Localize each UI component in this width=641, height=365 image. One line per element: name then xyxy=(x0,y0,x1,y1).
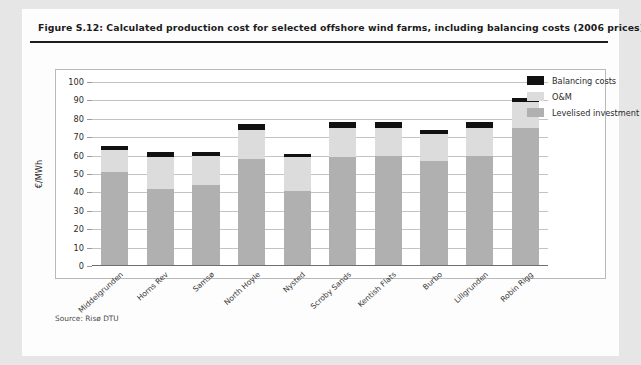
legend-label: O&M xyxy=(552,92,572,102)
bar-segment-levelised-investment xyxy=(466,156,493,266)
bar-segment-levelised-investment xyxy=(101,172,128,266)
legend-item: Balancing costs xyxy=(527,75,639,86)
bar-group[interactable]: North Hoyle xyxy=(238,82,265,266)
y-axis-tick xyxy=(87,100,92,101)
figure-title-bar: Figure S.12: Calculated production cost … xyxy=(30,15,608,45)
bar-segment-levelised-investment xyxy=(375,156,402,266)
y-axis-tick xyxy=(87,174,92,175)
bar-segment-levelised-investment xyxy=(420,161,447,266)
legend-label: Levelised investment xyxy=(552,108,639,118)
bar-segment-om xyxy=(329,128,356,157)
bar-segment-balancing-costs xyxy=(238,124,265,130)
y-axis-tick-label: 90 xyxy=(74,95,84,105)
y-axis-tick xyxy=(87,119,92,120)
y-axis-tick xyxy=(87,156,92,157)
y-axis-tick-label: 40 xyxy=(74,187,84,197)
bar-group[interactable]: Nysted xyxy=(284,82,311,266)
bar-group[interactable]: Kentish Flats xyxy=(375,82,402,266)
y-axis-tick xyxy=(87,137,92,138)
bar-segment-balancing-costs xyxy=(284,154,311,158)
bar-segment-om xyxy=(147,157,174,188)
y-axis-tick xyxy=(87,229,92,230)
bar-group[interactable]: Lillgrunden xyxy=(466,82,493,266)
bar-segment-levelised-investment xyxy=(238,159,265,266)
y-axis-tick xyxy=(87,211,92,212)
chart-frame: €/MWh 0102030405060708090100 Middelgrund… xyxy=(55,69,606,279)
source-note: Source: Risø DTU xyxy=(55,314,119,323)
bar-segment-om xyxy=(375,128,402,156)
title-rule xyxy=(30,41,608,43)
bar-segment-om xyxy=(284,157,311,190)
y-axis-tick xyxy=(87,248,92,249)
bar-segment-levelised-investment xyxy=(147,189,174,266)
bar-segment-levelised-investment xyxy=(329,157,356,266)
bar-group[interactable]: Scroby Sands xyxy=(329,82,356,266)
legend-swatch-icon xyxy=(527,92,544,101)
y-axis-tick-label: 30 xyxy=(74,206,84,216)
y-axis-tick-label: 60 xyxy=(74,151,84,161)
y-axis-tick xyxy=(87,82,92,83)
plot-area: 0102030405060708090100 MiddelgrundenHorn… xyxy=(92,82,548,266)
bar-segment-balancing-costs xyxy=(466,122,493,128)
y-axis-tick-label: 20 xyxy=(74,224,84,234)
y-axis-title: €/MWh xyxy=(34,160,44,188)
bar-segment-levelised-investment xyxy=(192,185,219,266)
axis-baseline xyxy=(92,265,548,266)
y-axis-tick-label: 50 xyxy=(74,169,84,179)
legend-swatch-icon xyxy=(527,76,544,85)
bar-group[interactable]: Samsø xyxy=(192,82,219,266)
y-axis-tick-label: 70 xyxy=(74,132,84,142)
bar-segment-om xyxy=(101,150,128,172)
bar-segment-om xyxy=(466,128,493,156)
bar-segment-levelised-investment xyxy=(284,191,311,266)
legend-label: Balancing costs xyxy=(552,76,616,86)
y-axis-tick-label: 100 xyxy=(68,77,84,87)
bar-segment-balancing-costs xyxy=(101,146,128,150)
y-axis-tick xyxy=(87,192,92,193)
bar-segment-om xyxy=(238,130,265,159)
bar-segment-balancing-costs xyxy=(192,152,219,156)
y-axis-tick-label: 0 xyxy=(79,261,84,271)
bar-segment-om xyxy=(192,156,219,185)
bar-segment-om xyxy=(420,134,447,162)
y-axis-tick xyxy=(87,266,92,267)
legend-item: O&M xyxy=(527,91,639,102)
figure-title: Figure S.12: Calculated production cost … xyxy=(30,15,608,35)
bar-group[interactable]: Burbo xyxy=(420,82,447,266)
bar-segment-balancing-costs xyxy=(375,122,402,128)
y-axis-tick-label: 80 xyxy=(74,114,84,124)
y-axis-tick-label: 10 xyxy=(74,243,84,253)
bar-segment-balancing-costs xyxy=(420,130,447,134)
chart-legend: Balancing costsO&MLevelised investment xyxy=(527,75,639,123)
legend-swatch-icon xyxy=(527,108,544,117)
bar-group[interactable]: Middelgrunden xyxy=(101,82,128,266)
bar-segment-balancing-costs xyxy=(329,122,356,128)
bar-group[interactable]: Horns Rev xyxy=(147,82,174,266)
bar-segment-balancing-costs xyxy=(147,152,174,158)
legend-item: Levelised investment xyxy=(527,107,639,118)
figure-panel: Figure S.12: Calculated production cost … xyxy=(22,9,619,356)
bar-segment-levelised-investment xyxy=(512,128,539,266)
